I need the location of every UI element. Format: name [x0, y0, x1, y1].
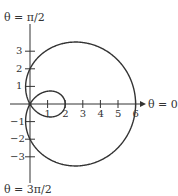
axis-label-top: θ = π/2: [4, 12, 45, 23]
x-tick-label: 2: [62, 109, 68, 119]
origin-point: [28, 102, 31, 105]
x-tick-label: 1: [45, 109, 51, 119]
y-tick-label: −3: [10, 152, 25, 162]
y-tick-label: 2: [16, 64, 22, 74]
axis-label-bottom: θ = 3π/2: [4, 184, 52, 195]
x-tick-label: 3: [80, 109, 86, 119]
y-tick-label: 3: [16, 46, 22, 56]
x-tick-label: 5: [115, 109, 121, 119]
y-tick-label: −1: [10, 117, 25, 127]
axis-label-right: θ = 0: [148, 99, 178, 110]
x-tick-label: 4: [97, 109, 103, 119]
x-axis-arrow-icon: [140, 101, 146, 107]
y-tick-label: −2: [10, 134, 25, 144]
y-tick-label: 1: [16, 81, 22, 91]
x-tick-label: 6: [133, 109, 139, 119]
